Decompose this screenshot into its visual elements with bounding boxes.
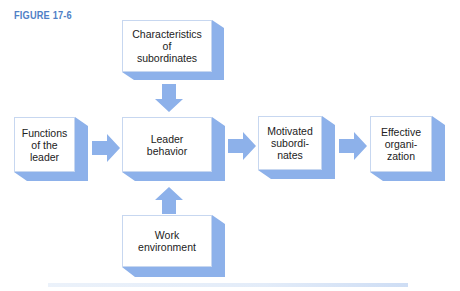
node-text-line: leader <box>22 151 68 163</box>
node-text-line: environment <box>138 241 196 253</box>
node-text-line: subordinates <box>132 52 201 64</box>
arrow-right-icon <box>228 131 258 161</box>
cutoff-caption <box>48 283 408 287</box>
node-text-line: Motivated <box>267 125 313 137</box>
characteristics-of-subordinates-node: Characteristics of subordinates <box>122 20 212 72</box>
effective-organization-node: Effective organi- zation <box>370 116 432 172</box>
node-text-line: organi- <box>381 138 421 150</box>
leader-behavior-node: Leader behavior <box>122 117 212 172</box>
node-text-line: Leader <box>147 133 187 145</box>
node-text-line: Effective <box>381 126 421 138</box>
node-text-line: behavior <box>147 145 187 157</box>
figure-label: FIGURE 17-6 <box>14 9 72 21</box>
arrow-right-icon <box>339 131 369 161</box>
functions-of-the-leader-node: Functions of the leader <box>14 117 75 172</box>
node-text-line: subordi- <box>267 137 313 149</box>
node-text-line: of the <box>22 139 68 151</box>
motivated-subordinates-node: Motivated subordi- nates <box>258 116 322 170</box>
node-text-line: Functions <box>22 127 68 139</box>
work-environment-node: Work environment <box>122 215 212 267</box>
node-text-line: Characteristics <box>132 28 201 40</box>
arrow-down-icon <box>154 84 184 114</box>
arrow-up-icon <box>154 187 184 215</box>
node-text-line: zation <box>381 150 421 162</box>
node-text-line: of <box>132 40 201 52</box>
arrow-right-icon <box>92 133 122 163</box>
node-text-line: Work <box>138 229 196 241</box>
node-text-line: nates <box>267 149 313 161</box>
